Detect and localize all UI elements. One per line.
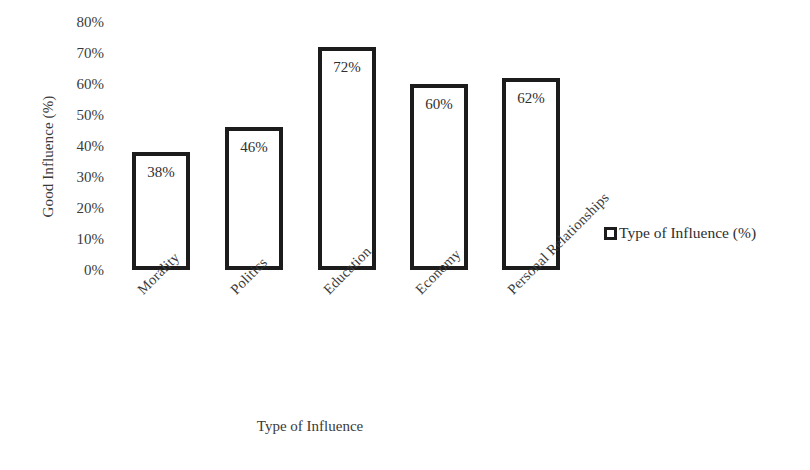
bar-chart: Good Influence (%) 80%70%60%50%40%30%20%… [0,0,810,470]
y-axis-tick-label: 20% [52,200,104,217]
y-axis-tick-label: 60% [52,76,104,93]
y-axis-tick-label: 30% [52,169,104,186]
y-axis-tick-labels: 80%70%60%50%40%30%20%10%0% [52,0,104,470]
bar [318,47,376,270]
y-axis-tick-label: 10% [52,231,104,248]
legend-item-label: Type of Influence (%) [619,224,756,242]
bar-value-label: 72% [318,59,376,76]
bar-value-label: 46% [225,139,283,156]
y-axis-tick-label: 0% [52,262,104,279]
y-axis-tick-label: 40% [52,138,104,155]
bar-value-label: 38% [132,164,190,181]
legend-swatch-icon [604,227,617,240]
y-axis-tick-label: 70% [52,45,104,62]
y-axis-tick-label: 80% [52,14,104,31]
chart-legend: Type of Influence (%) [604,224,756,242]
bar-value-label: 62% [502,90,560,107]
x-axis-title: Type of Influence [0,418,620,435]
y-axis-tick-label: 50% [52,107,104,124]
plot-area: 38%Morality46%Politics72%Education60%Eco… [110,0,590,470]
bar-value-label: 60% [410,96,468,113]
